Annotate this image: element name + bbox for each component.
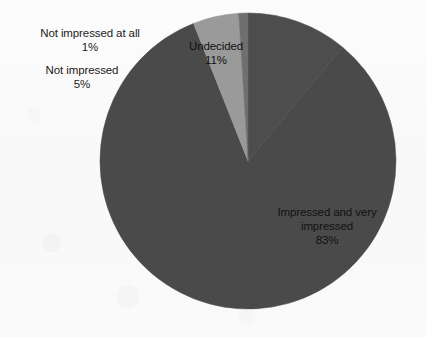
- figure-caption: [4, 328, 304, 337]
- slice-label-impressed: Impressed and very impressed 83%: [252, 206, 402, 247]
- pie-chart-page: Not impressed at all 1% Not impressed 5%…: [0, 0, 426, 337]
- slice-label-not-impressed-at-all: Not impressed at all 1%: [10, 27, 170, 55]
- slice-label-not-impressed: Not impressed 5%: [10, 64, 154, 92]
- slice-label-undecided: Undecided 11%: [160, 40, 272, 68]
